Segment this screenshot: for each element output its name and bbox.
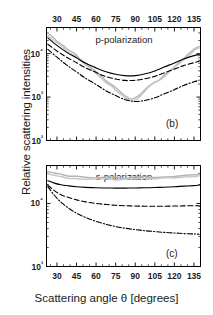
x-tick-label: 30 xyxy=(52,14,61,24)
x-tick-label: 105 xyxy=(148,14,162,24)
x-tick-label: 120 xyxy=(167,271,181,281)
x-tick-label: 45 xyxy=(72,14,81,24)
x-tick-label: 75 xyxy=(111,271,120,281)
y-tick-label: 10² xyxy=(24,136,43,146)
panel-c-bottom-tick-labels: 3045607590105120135 xyxy=(0,271,213,283)
scattering-intensities-figure: Relative scattering intensities Scatteri… xyxy=(0,0,213,315)
x-tick-label: 75 xyxy=(111,14,120,24)
x-tick-label: 135 xyxy=(187,14,201,24)
x-tick-label: 105 xyxy=(148,271,162,281)
panel-c-label: (c) xyxy=(166,248,178,259)
x-tick-label: 135 xyxy=(187,271,201,281)
x-tick-label: 120 xyxy=(167,14,181,24)
y-tick-label: 10⁴ xyxy=(24,49,43,59)
x-tick-label: 90 xyxy=(131,271,140,281)
panel-b-label: (b) xyxy=(166,118,178,129)
x-tick-label: 30 xyxy=(52,271,61,281)
x-tick-label: 60 xyxy=(91,14,100,24)
y-tick-label: 10⁴ xyxy=(24,198,43,208)
panel-b-title: p-polarization xyxy=(95,34,152,45)
panel-b-top-tick-labels: 3045607590105120135 xyxy=(0,14,213,26)
x-tick-label: 60 xyxy=(91,271,100,281)
y-tick-label: 10³ xyxy=(24,262,43,272)
panel-c-title: s-polarization xyxy=(96,171,153,182)
x-tick-label: 90 xyxy=(131,14,140,24)
y-tick-label: 10³ xyxy=(24,92,43,102)
x-tick-label: 45 xyxy=(72,271,81,281)
x-axis-title: Scattering angle θ [degrees] xyxy=(0,292,213,304)
